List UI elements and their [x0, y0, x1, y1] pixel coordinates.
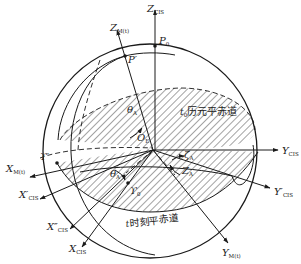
label-gamma: ϒ′ [40, 151, 50, 162]
label-y-cis: YCIS [282, 145, 299, 157]
label-x-cis-prime: X′CIS [18, 189, 39, 201]
label-epoch-mean-equator: t0历元平赤道 [180, 105, 237, 118]
label-z-mt: ZM(t) [109, 22, 129, 34]
label-x-mt: XM(t) [5, 163, 25, 175]
label-y-cis-prime: Y′CIS [274, 186, 293, 198]
label-p0: P0 [158, 35, 170, 47]
celestial-sphere-diagram: ZCIS ZM(t) P0 P′ θA t0历元平赤道 OE ϒ′ θA ϒ0 … [0, 0, 301, 264]
point-gamma [55, 161, 59, 165]
epoch-mean-equator-plane [40, 88, 255, 158]
point-pprime [123, 54, 127, 58]
date-mean-equator-plane [57, 148, 258, 212]
label-z-cis: ZCIS [146, 3, 164, 15]
label-pprime: P′ [127, 54, 138, 65]
point-p0 [153, 44, 157, 48]
label-date-mean-equator: t时刻平赤道 [125, 211, 180, 229]
label-x-cis-dprime: X″CIS [46, 221, 68, 233]
label-y-mt: YM(t) [222, 247, 241, 259]
